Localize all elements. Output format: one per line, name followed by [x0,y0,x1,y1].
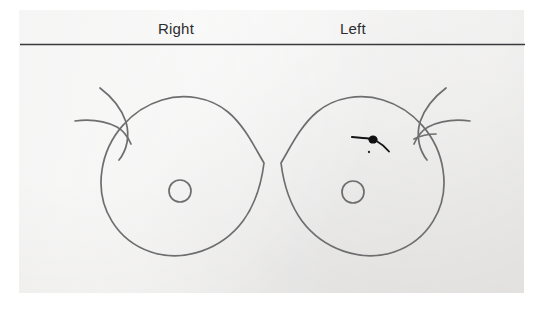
scanned-form-region [19,10,524,293]
header-label-right: Right [158,20,194,37]
scan-texture-overlay [19,10,524,293]
page-canvas: Right Left [0,0,543,311]
header-label-left: Left [340,20,366,37]
